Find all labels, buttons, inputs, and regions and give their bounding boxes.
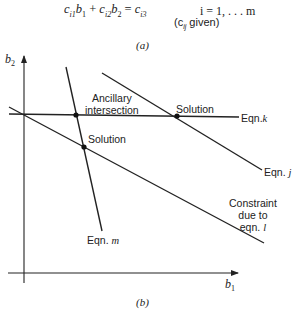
constraint-var: l (263, 222, 266, 233)
eqn-j-label: Eqn. j (264, 166, 291, 179)
y-axis-label: b2 (5, 52, 15, 68)
constraint-line2: due to (229, 209, 277, 221)
eqn-k-text: Eqn. (241, 112, 263, 124)
constraint-diagram (0, 0, 292, 314)
constraint-label: Constraint due to eqn. l (229, 197, 277, 234)
ancillary-line1: Ancillary (85, 92, 139, 104)
eqn-m-var: m (112, 235, 120, 246)
eqn-j-line (102, 73, 262, 170)
eqn-k-var: k (263, 113, 268, 124)
y-axis-sub: 2 (11, 59, 15, 68)
eqn-j-var: j (289, 167, 292, 178)
ancillary-line2: intersection (85, 104, 139, 116)
x-axis-label: b1 (225, 277, 235, 293)
eqn-j-text: Eqn. (264, 166, 286, 178)
solution-left-label: Solution (88, 133, 126, 145)
constraint-eqn-text: eqn. (240, 221, 260, 233)
ancillary-intersection-label: Ancillary intersection (85, 92, 139, 116)
solution-left-point (81, 144, 86, 149)
eqn-l-line (9, 107, 264, 243)
x-axis-sub: 1 (231, 284, 235, 293)
constraint-line1: Constraint (229, 197, 277, 209)
constraint-line3: eqn. l (229, 221, 277, 234)
eqn-m-text: Eqn. (87, 234, 109, 246)
solution-right-label: Solution (176, 103, 214, 115)
eqn-k-label: Eqn.k (241, 112, 267, 125)
eqn-m-label: Eqn. m (87, 234, 119, 247)
ancillary-intersection-point (73, 112, 78, 117)
caption-b: (b) (136, 296, 149, 308)
